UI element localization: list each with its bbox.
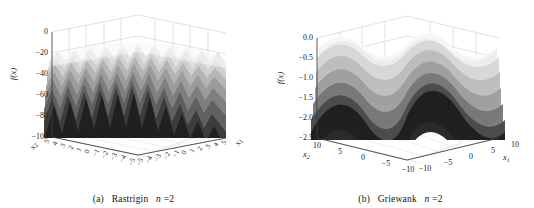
- z-tick-1: −20: [35, 48, 48, 57]
- z-tick-4: −80: [35, 111, 48, 120]
- y-axis-title-rastrigin: x2: [27, 141, 39, 152]
- y-tick-5: 5: [338, 147, 342, 156]
- caption-prefix-rastrigin: (a): [93, 194, 104, 204]
- z-tick-3: −1.5: [298, 93, 313, 102]
- svg-text:f(x): f(x): [8, 68, 18, 81]
- svg-text:x2: x2: [27, 141, 39, 152]
- z-tick-4: −2.0: [298, 113, 313, 122]
- svg-text:x1: x1: [232, 137, 244, 148]
- x-axis-title-griewank: x1: [502, 152, 510, 163]
- svg-text:x2: x2: [302, 149, 310, 160]
- z-tick-0: 0: [44, 27, 48, 36]
- z-tick-3: −60: [35, 90, 48, 99]
- x-tick-m5: −5: [444, 158, 453, 167]
- y-axis-title-griewank: x2: [302, 149, 310, 160]
- caption-value-griewank: =2: [432, 194, 443, 204]
- caption-rastrigin: (a) Rastrigin n =2: [0, 194, 267, 204]
- plot-area-rastrigin: 0 −20 −40 −60 −80 −100 f(x) 5 4 3 2: [0, 0, 267, 178]
- x-axis-title-rastrigin: x1: [232, 137, 244, 148]
- z-axis-title-griewank: f(x): [275, 72, 285, 85]
- y-tick-10: 10: [313, 141, 321, 150]
- plot-area-griewank: 0.0 −0.5 −1.0 −1.5 −2.0 −2.5 f(x) 10 5 0…: [267, 0, 534, 178]
- z-tick-2: −40: [35, 69, 48, 78]
- caption-name-rastrigin: Rastrigin: [112, 194, 149, 204]
- x-tick-5: 5: [220, 139, 229, 146]
- y-tick-m5: −5: [382, 159, 391, 168]
- z-axis-title-rastrigin: f(x): [8, 68, 18, 81]
- x-tick-5: 5: [491, 146, 495, 155]
- y-tick-0: 0: [361, 153, 365, 162]
- y-tick-m10: −10: [402, 165, 415, 174]
- x-tick-0: 0: [469, 152, 473, 161]
- z-tick-labels-griewank: 0.0 −0.5 −1.0 −1.5 −2.0 −2.5: [298, 33, 313, 142]
- z-tick-0: 0.0: [303, 33, 313, 42]
- caption-param-rastrigin: n: [156, 194, 161, 204]
- caption-value-rastrigin: =2: [164, 194, 175, 204]
- x-axis-line-griewank: [407, 138, 499, 160]
- z-tick-2: −1.0: [298, 73, 313, 82]
- x-tick-10: 10: [511, 140, 519, 149]
- panel-rastrigin: 0 −20 −40 −60 −80 −100 f(x) 5 4 3 2: [0, 0, 267, 208]
- caption-prefix-griewank: (b): [358, 194, 370, 204]
- z-tick-1: −0.5: [298, 53, 313, 62]
- caption-param-griewank: n: [425, 194, 430, 204]
- svg-text:x1: x1: [502, 152, 510, 163]
- svg-text:f(x): f(x): [275, 72, 285, 85]
- x-tick-m10: −10: [419, 164, 432, 173]
- caption-griewank: (b) Griewank n =2: [267, 194, 534, 204]
- panel-griewank: 0.0 −0.5 −1.0 −1.5 −2.0 −2.5 f(x) 10 5 0…: [267, 0, 534, 208]
- z-tick-5: −2.5: [298, 133, 313, 142]
- figure-two-benchmark-surfaces: 0 −20 −40 −60 −80 −100 f(x) 5 4 3 2: [0, 0, 534, 208]
- caption-name-griewank: Griewank: [378, 194, 417, 204]
